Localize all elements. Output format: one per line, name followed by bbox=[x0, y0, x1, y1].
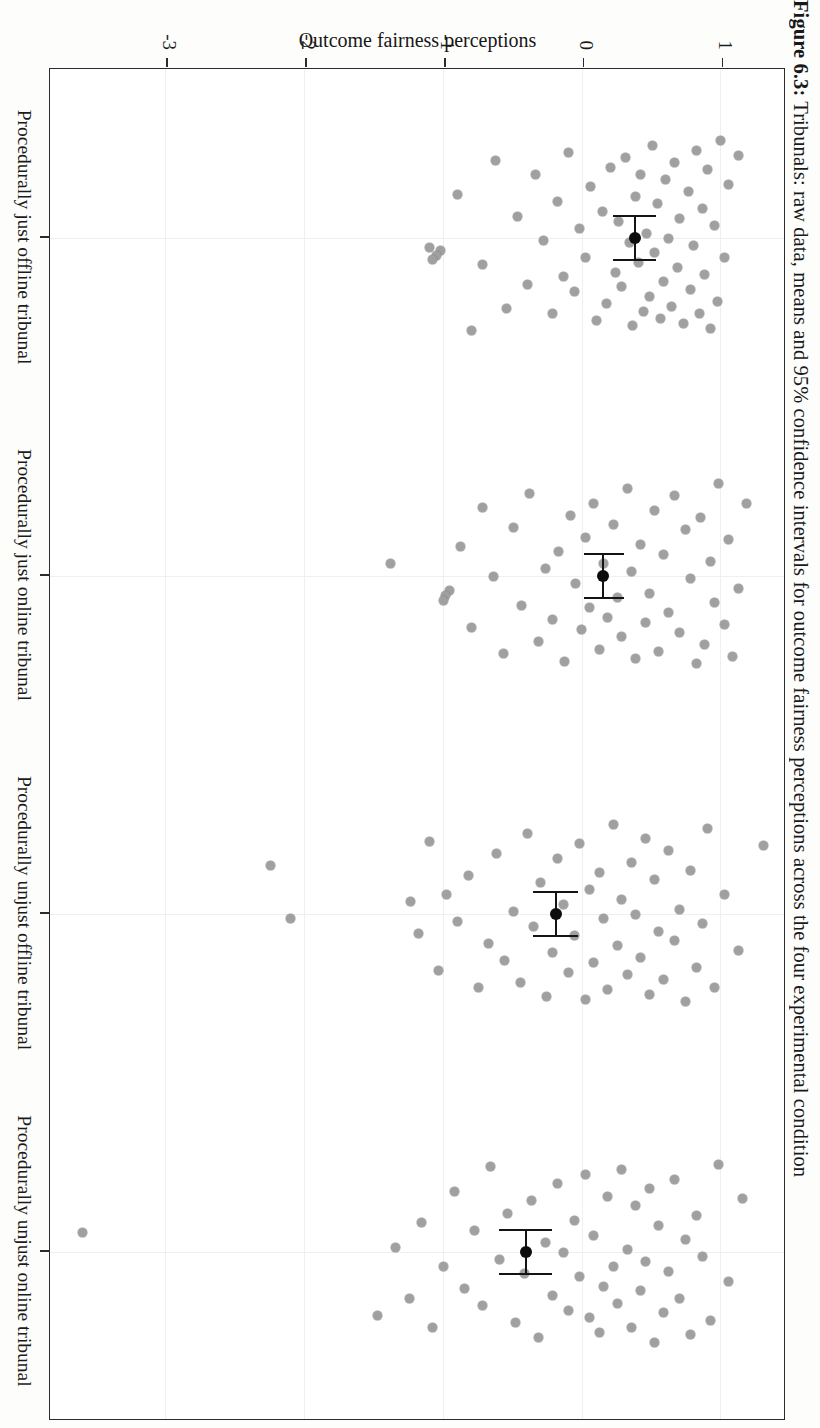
raw-data-point bbox=[613, 1299, 622, 1308]
raw-data-point bbox=[637, 1286, 646, 1295]
raw-data-point bbox=[516, 978, 525, 987]
raw-data-point bbox=[617, 282, 626, 291]
raw-data-point bbox=[609, 520, 618, 529]
raw-data-point bbox=[641, 618, 650, 627]
raw-data-point bbox=[541, 564, 550, 573]
raw-data-point bbox=[664, 1267, 673, 1276]
plot-panel bbox=[49, 68, 785, 1420]
raw-data-point bbox=[564, 1306, 573, 1315]
raw-data-point bbox=[513, 212, 522, 221]
raw-data-point bbox=[738, 1194, 747, 1203]
raw-data-point bbox=[659, 277, 668, 286]
raw-data-point bbox=[734, 584, 743, 593]
raw-data-point bbox=[570, 287, 579, 296]
raw-data-point bbox=[728, 652, 737, 661]
raw-data-point bbox=[645, 589, 654, 598]
y-axis-tick bbox=[583, 58, 585, 67]
raw-data-point bbox=[720, 890, 729, 899]
raw-data-point bbox=[687, 574, 696, 583]
raw-data-point bbox=[425, 837, 434, 846]
y-axis-title: Outcome fairness perceptions bbox=[268, 29, 568, 52]
raw-data-point bbox=[585, 603, 594, 612]
gridline-horizontal bbox=[165, 69, 166, 1419]
raw-data-point bbox=[489, 572, 498, 581]
raw-data-point bbox=[617, 895, 626, 904]
raw-data-point bbox=[575, 224, 584, 233]
raw-data-point bbox=[670, 158, 679, 167]
raw-data-point bbox=[581, 1170, 590, 1179]
raw-data-point bbox=[759, 841, 768, 850]
raw-data-point bbox=[575, 1272, 584, 1281]
raw-data-point bbox=[720, 253, 729, 262]
gridline-vertical bbox=[50, 1252, 784, 1253]
raw-data-point bbox=[689, 241, 698, 250]
raw-data-point bbox=[559, 900, 568, 909]
raw-data-point bbox=[716, 136, 725, 145]
raw-data-point bbox=[650, 875, 659, 884]
raw-data-point bbox=[670, 1175, 679, 1184]
raw-data-point bbox=[548, 948, 557, 957]
raw-data-point bbox=[555, 547, 564, 556]
figure-6-3: Figure 6.3: Tribunals: raw data, means a… bbox=[0, 0, 820, 1428]
raw-data-point bbox=[710, 983, 719, 992]
raw-data-point bbox=[609, 1262, 618, 1271]
raw-data-point bbox=[692, 659, 701, 668]
raw-data-point bbox=[585, 885, 594, 894]
raw-data-point bbox=[491, 156, 500, 165]
raw-data-point bbox=[592, 316, 601, 325]
raw-data-point bbox=[670, 936, 679, 945]
raw-data-point bbox=[548, 615, 557, 624]
raw-data-point bbox=[645, 292, 654, 301]
raw-data-point bbox=[675, 628, 684, 637]
gridline-horizontal bbox=[582, 69, 583, 1419]
raw-data-point bbox=[428, 1323, 437, 1332]
raw-data-point bbox=[453, 190, 462, 199]
gridline-vertical bbox=[50, 576, 784, 577]
x-axis-tick bbox=[40, 1250, 49, 1252]
y-axis-tick bbox=[166, 58, 168, 67]
y-axis-tick bbox=[444, 58, 446, 67]
raw-data-point bbox=[450, 1187, 459, 1196]
mean-point bbox=[597, 570, 609, 582]
raw-data-point bbox=[391, 1243, 400, 1252]
mean-point bbox=[550, 908, 562, 920]
raw-data-point bbox=[266, 861, 275, 870]
raw-data-point bbox=[700, 640, 709, 649]
raw-data-point bbox=[664, 234, 673, 243]
x-axis-tick bbox=[40, 912, 49, 914]
raw-data-point bbox=[667, 302, 676, 311]
raw-data-point bbox=[581, 253, 590, 262]
raw-data-point bbox=[675, 1294, 684, 1303]
figure-caption-text: Tribunals: raw data, means and 95% confi… bbox=[790, 96, 812, 1177]
raw-data-point bbox=[692, 146, 701, 155]
y-axis-tick-label: 0 bbox=[575, 0, 597, 50]
raw-data-point bbox=[531, 170, 540, 179]
raw-data-point bbox=[542, 992, 551, 1001]
raw-data-point bbox=[467, 326, 476, 335]
y-axis-tick bbox=[305, 58, 307, 67]
raw-data-point bbox=[564, 148, 573, 157]
x-axis-category-label: Procedurally unjust online tribunal bbox=[13, 1051, 35, 1428]
raw-data-point bbox=[539, 236, 548, 245]
raw-data-point bbox=[698, 204, 707, 213]
raw-data-point bbox=[474, 983, 483, 992]
raw-data-point bbox=[559, 1248, 568, 1257]
raw-data-point bbox=[589, 499, 598, 508]
raw-data-point bbox=[428, 255, 437, 264]
raw-data-point bbox=[710, 598, 719, 607]
raw-data-point bbox=[534, 637, 543, 646]
raw-data-point bbox=[503, 1209, 512, 1218]
raw-data-point bbox=[581, 995, 590, 1004]
raw-data-point bbox=[512, 1318, 521, 1327]
raw-data-point bbox=[696, 513, 705, 522]
raw-data-point bbox=[589, 1231, 598, 1240]
gridline-vertical bbox=[50, 914, 784, 915]
raw-data-point bbox=[650, 506, 659, 515]
raw-data-point bbox=[650, 1338, 659, 1347]
raw-data-point bbox=[478, 260, 487, 269]
raw-data-point bbox=[534, 1333, 543, 1342]
raw-data-point bbox=[631, 654, 640, 663]
raw-data-point bbox=[641, 834, 650, 843]
raw-data-point bbox=[687, 285, 696, 294]
raw-data-point bbox=[570, 1216, 579, 1225]
